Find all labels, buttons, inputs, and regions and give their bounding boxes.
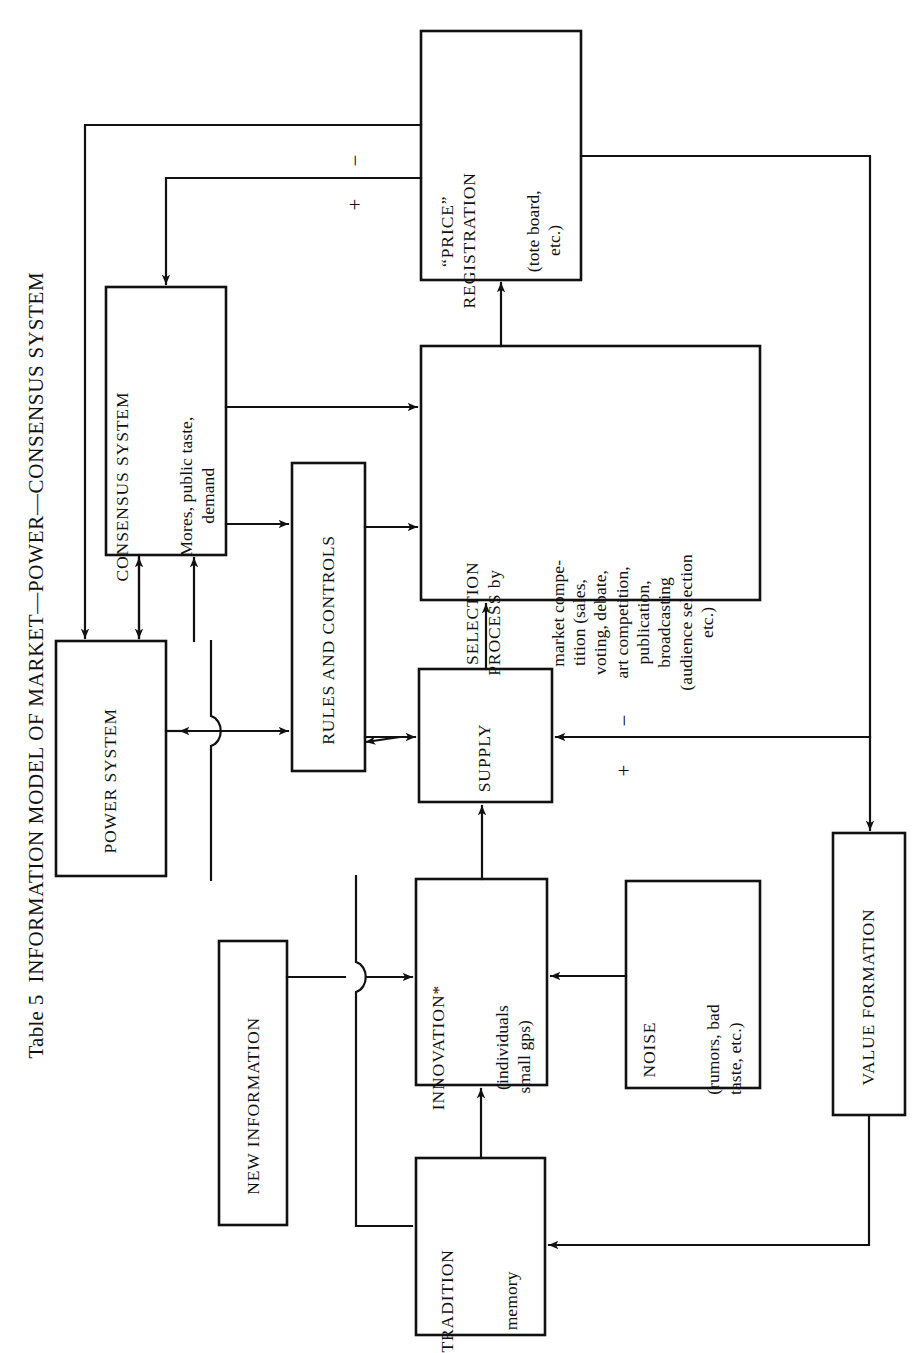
node-box-value-formation [833,833,905,1115]
node-box-consensus-system [106,287,226,555]
node-box-power-system [56,641,166,876]
node-box-innovation [416,879,547,1085]
edge-vertical-hop-power [211,641,221,880]
node-box-new-information [219,941,287,1225]
node-box-tradition [416,1158,545,1335]
figure-plate: Table 5 INFORMATION MODEL OF MARKET—POWE… [0,0,913,1353]
edge-power-down-hop-to-tradition [356,876,412,1226]
node-box-price-registration [421,31,581,280]
diagram-wiring [0,0,913,1353]
node-box-selection-process [421,346,760,600]
node-box-supply [419,669,552,802]
edge-price-to-consensus-plus [166,178,421,284]
edge-value-formation-to-tradition [549,1115,869,1245]
node-box-rules-and-controls [292,463,365,771]
node-box-noise [626,881,760,1088]
